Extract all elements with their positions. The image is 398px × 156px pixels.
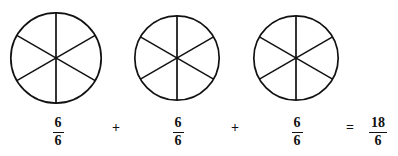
plus-operator-2: +: [225, 121, 245, 135]
fraction-2-numerator: 6: [173, 116, 184, 132]
fraction-2-denominator: 6: [173, 132, 184, 149]
pie-chart-3: [252, 14, 340, 102]
fraction-1: 6 6: [53, 116, 64, 148]
pie-1-svg: [9, 11, 103, 105]
fraction-term-1: 6 6: [38, 116, 78, 148]
pie-chart-1: [9, 11, 103, 105]
fraction-term-2: 6 6: [158, 116, 198, 148]
pie-3-svg: [252, 14, 340, 102]
fraction-3: 6 6: [292, 116, 303, 148]
plus-operator-1: +: [106, 121, 126, 135]
fraction-term-3: 6 6: [277, 116, 317, 148]
fraction-diagram-canvas: 6 6 + 6 6 + 6 6 = 18 6: [0, 0, 398, 156]
fraction-result: 18 6: [358, 116, 398, 148]
fraction-1-denominator: 6: [53, 132, 64, 149]
fraction-3-numerator: 6: [292, 116, 303, 132]
pie-2-svg: [133, 14, 221, 102]
fraction-1-numerator: 6: [53, 116, 64, 132]
fraction-result-denominator: 6: [369, 132, 387, 149]
fraction-3-denominator: 6: [292, 132, 303, 149]
fraction-2: 6 6: [173, 116, 184, 148]
fraction-result-numerator: 18: [369, 116, 387, 132]
equals-operator: =: [340, 121, 360, 135]
fraction-result-value: 18 6: [369, 116, 387, 148]
pie-chart-2: [133, 14, 221, 102]
